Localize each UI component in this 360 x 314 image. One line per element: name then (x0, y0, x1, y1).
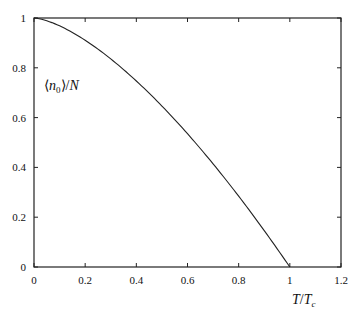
y-tick-label: 0.2 (12, 211, 26, 223)
x-tick-label: 1.2 (334, 274, 348, 286)
y-tick-label: 0.4 (12, 161, 26, 173)
y-axis-label: ⟨n0⟩/N (44, 78, 79, 95)
y-tick-label: 0 (21, 261, 27, 273)
curve-line (34, 18, 290, 267)
axis-ticks: 00.20.40.60.811.200.20.40.60.81 (12, 12, 348, 286)
plot-frame (34, 18, 341, 267)
y-tick-label: 0.8 (12, 62, 26, 74)
y-tick-label: 1 (21, 12, 27, 24)
x-tick-label: 1 (287, 274, 293, 286)
x-tick-label: 0.4 (129, 274, 143, 286)
x-axis-label: T/Tc (292, 292, 315, 309)
y-tick-label: 0.6 (12, 112, 26, 124)
x-tick-label: 0.2 (78, 274, 92, 286)
x-tick-label: 0.8 (232, 274, 246, 286)
x-tick-label: 0 (31, 274, 37, 286)
x-tick-label: 0.6 (181, 274, 195, 286)
chart: 00.20.40.60.811.200.20.40.60.81 ⟨n0⟩/N T… (0, 0, 360, 314)
